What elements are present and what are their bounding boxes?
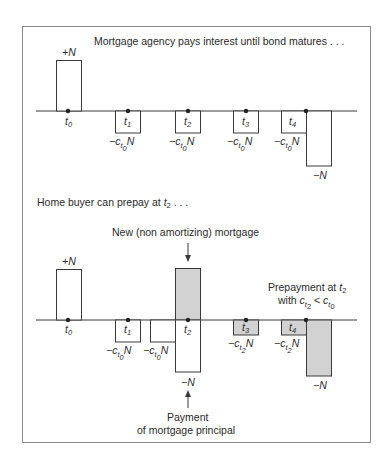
time-dot-t2 (186, 109, 190, 113)
plus-n-label: +N (62, 46, 76, 58)
payment-label-line1: Payment (167, 411, 209, 423)
coupon-labels: −ct0N −ct0N −ct0N −ct0N (109, 135, 300, 153)
coupon-label-t4: −ct0N (274, 135, 300, 153)
time-dot-t4 (304, 109, 308, 113)
new-principal-label: −N (313, 379, 327, 391)
coupon-label-t2: −ct0N (169, 135, 195, 153)
new-principal-bar-t4 (307, 320, 332, 376)
principal-bar-t4 (307, 111, 332, 166)
coupon-label-t2-old: −ct0N (143, 344, 169, 362)
principal-payment-label: −N (181, 376, 195, 388)
inflow-bar-t0 (57, 270, 82, 321)
bottom-panel-title: Home buyer can prepay at t2 . . . (37, 196, 188, 210)
time-dot-t1 (126, 109, 130, 113)
time-dot-t4 (304, 318, 308, 322)
prepayment-annotation-line1: Prepayment at t2 (268, 281, 346, 295)
time-dot-t0 (66, 109, 70, 113)
time-label-t0: t0 (65, 323, 73, 337)
top-panel-title: Mortgage agency pays interest until bond… (94, 35, 344, 47)
coupon-label-t1: −ct0N (106, 344, 132, 362)
principal-label: −N (313, 169, 327, 181)
prepayment-annotation-line2: with ct2 < ct0 (277, 294, 335, 311)
time-dot-t3 (244, 109, 248, 113)
inflow-bar-t0 (57, 61, 82, 112)
top-panel: Mortgage agency pays interest until bond… (36, 35, 357, 181)
cash-flow-diagram: Mortgage agency pays interest until bond… (0, 0, 390, 463)
arrow-up-icon (185, 390, 191, 408)
time-dot-t0 (66, 318, 70, 322)
coupon-label-t3-new: −ct2N (228, 337, 254, 355)
coupon-label-t4-new: −ct2N (274, 337, 300, 355)
payment-label-line2: of mortgage principal (137, 424, 235, 436)
bottom-panel: Home buyer can prepay at t2 . . . New (n… (36, 196, 357, 436)
plus-n-label-bottom: +N (62, 255, 76, 267)
coupon-label-t3: −ct0N (227, 135, 253, 153)
new-mortgage-label: New (non amortizing) mortgage (112, 226, 259, 238)
time-dot-t2 (186, 318, 190, 322)
coupon-label-t1: −ct0N (109, 135, 135, 153)
arrow-down-icon (185, 243, 191, 262)
coupon-bar-t2-old (151, 320, 176, 342)
time-dot-t1 (126, 318, 130, 322)
time-label-t0: t0 (65, 115, 73, 129)
new-mortgage-bar-t2 (176, 269, 201, 321)
